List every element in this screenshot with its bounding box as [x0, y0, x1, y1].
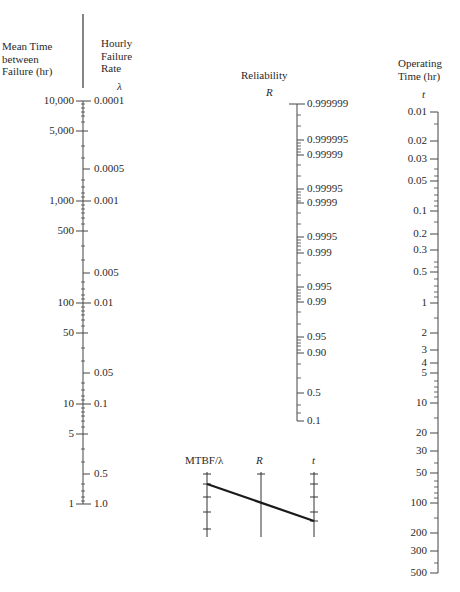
time-tick-label: 0.5	[413, 265, 427, 278]
failure-rate-header: Hourly Failure Rate	[101, 37, 132, 75]
reliability-tick-label: 0.1	[307, 414, 321, 427]
reliability-tick-label: 0.999999	[307, 97, 348, 110]
reliability-tick-label: 0.99999	[307, 148, 343, 161]
failure-rate-tick-label: 0.01	[94, 296, 113, 309]
time-tick-label: 10	[416, 396, 427, 409]
failure-rate-tick-label: 0.005	[94, 266, 119, 279]
inset-r-label: R	[256, 454, 263, 467]
reliability-tick-label: 0.9999	[307, 196, 337, 209]
mtbf-tick-label: 500	[58, 224, 75, 237]
failure-rate-tick-label: 1.0	[94, 497, 108, 510]
time-tick-label: 0.3	[413, 243, 427, 256]
time-axis	[430, 112, 438, 573]
mtbf-tick-label: 1,000	[49, 194, 74, 207]
time-tick-label: 0.03	[408, 152, 427, 165]
time-tick-label: 300	[411, 544, 428, 557]
mtbf-tick-label: 10	[63, 397, 74, 410]
reliability-tick-label: 0.5	[307, 386, 321, 399]
mtbf-axis	[76, 101, 91, 504]
reliability-header: Reliability	[241, 69, 287, 82]
time-tick-label: 20	[416, 426, 427, 439]
reliability-tick-label: 0.90	[307, 346, 326, 359]
failure-rate-tick-label: 0.1	[94, 397, 108, 410]
mtbf-tick-label: 10,000	[44, 94, 74, 107]
inset-t-label: t	[312, 454, 315, 467]
time-tick-label: 0.1	[413, 204, 427, 217]
time-tick-label: 0.2	[413, 227, 427, 240]
time-tick-label: 30	[416, 444, 427, 457]
time-tick-label: 2	[422, 326, 428, 339]
reliability-tick-label: 0.99995	[307, 182, 343, 195]
time-tick-label: 5	[422, 366, 428, 379]
operating-time-header: Operating Time (hr)	[398, 57, 442, 82]
reliability-tick-label: 0.995	[307, 280, 332, 293]
reliability-tick-label: 0.999995	[307, 133, 348, 146]
failure-rate-tick-label: 0.001	[94, 194, 119, 207]
reliability-tick-label: 0.999	[307, 246, 332, 259]
failure-rate-tick-label: 0.0001	[94, 94, 124, 107]
time-tick-label: 0.05	[408, 174, 427, 187]
inset-diagram	[203, 472, 318, 537]
time-tick-label: 3	[422, 343, 428, 356]
time-tick-label: 0.02	[408, 134, 427, 147]
mtbf-tick-label: 5	[69, 427, 75, 440]
time-tick-label: 500	[411, 566, 428, 579]
mtbf-header: Mean Time between Failure (hr)	[2, 40, 52, 78]
mtbf-tick-label: 5,000	[49, 124, 74, 137]
reliability-tick-label: 0.99	[307, 295, 326, 308]
inset-mtbf-label: MTBF/λ	[185, 454, 223, 467]
time-tick-label: 100	[411, 496, 428, 509]
time-tick-label: 0.01	[408, 105, 427, 118]
t-symbol: t	[422, 88, 425, 100]
time-tick-label: 1	[422, 296, 428, 309]
failure-rate-tick-label: 0.5	[94, 467, 108, 480]
mtbf-tick-label: 50	[63, 326, 74, 339]
r-symbol: R	[266, 86, 273, 98]
mtbf-tick-label: 100	[58, 296, 75, 309]
time-tick-label: 50	[416, 466, 427, 479]
lambda-symbol: λ	[117, 80, 122, 92]
failure-rate-tick-label: 0.05	[94, 366, 113, 379]
reliability-tick-label: 0.9995	[307, 230, 337, 243]
mtbf-tick-label: 1	[69, 497, 75, 510]
failure-rate-tick-label: 0.0005	[94, 162, 124, 175]
time-tick-label: 200	[411, 526, 428, 539]
reliability-tick-label: 0.95	[307, 330, 326, 343]
reliability-axis	[289, 104, 305, 421]
